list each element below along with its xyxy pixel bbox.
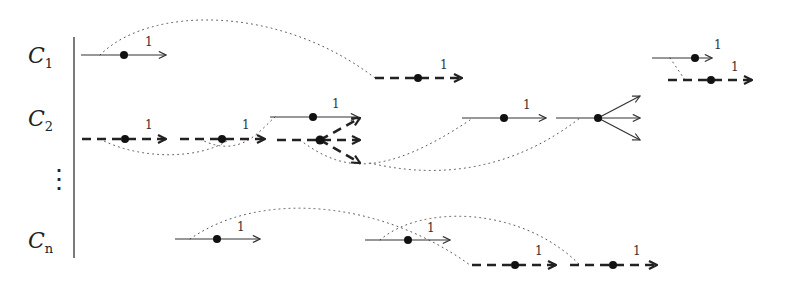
svg-text:1: 1 [714,38,722,52]
row-label-c2: C2 [28,106,53,134]
svg-text:1: 1 [440,58,448,72]
svg-text:1: 1 [523,98,531,112]
arrow-c1-solid-a: 1 [81,35,166,59]
arrow-cn-solid-a: 1 [175,220,260,243]
event-structure-diagram: C1 C2 ⋮ Cn 1 1 1 1 1 1 [0,0,798,281]
arrow-cn-dashed-d: 1 [570,244,657,269]
svg-text:1: 1 [145,118,153,132]
arrow-cn-solid-b: 1 [365,221,450,244]
arrow-c2-solid-c: 1 [270,97,358,121]
branch-c2-solid [556,96,640,140]
arrow-cn-dashed-c: 1 [472,244,556,269]
arrow-c1-solid-c: 1 [652,38,722,62]
svg-text:1: 1 [145,35,153,49]
arrow-c2-dashed-a: 1 [82,118,166,143]
arrow-c2-dashed-b: 1 [180,118,265,143]
arrow-c1-dashed-d: 1 [668,60,752,84]
row-label-cn: Cn [28,228,54,256]
svg-text:1: 1 [237,220,245,234]
row-label-c1: C1 [28,43,53,71]
svg-text:1: 1 [633,244,641,258]
svg-text:1: 1 [427,221,435,235]
dotted-connectors [100,20,685,265]
arrow-c1-dashed-b: 1 [375,58,462,82]
svg-text:1: 1 [731,60,739,74]
branch-c2-dashed [277,118,360,163]
svg-text:1: 1 [535,244,543,258]
arrow-c2-solid-d: 1 [462,98,546,122]
svg-text:1: 1 [332,97,340,111]
row-label-vdots: ⋮ [46,164,72,194]
svg-text:1: 1 [242,118,250,132]
